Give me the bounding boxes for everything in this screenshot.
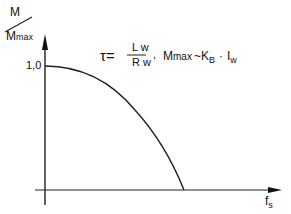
- y-den-sub: max: [16, 32, 33, 42]
- mmax-main: M: [163, 49, 173, 63]
- i-sub: w: [230, 55, 237, 65]
- x-label-sub: s: [268, 200, 273, 210]
- chart-plot: [0, 0, 291, 214]
- curve-series: [45, 66, 184, 190]
- mmax-sub: max: [173, 51, 192, 62]
- k-sub: B: [209, 55, 215, 65]
- y-label-denominator: Mmax: [6, 29, 33, 43]
- y-label-numerator: M: [10, 5, 20, 19]
- formula-mmax: Mmax~KB·Iw: [163, 49, 237, 63]
- tilde: ~: [194, 49, 201, 63]
- formula-separator: ,: [153, 48, 156, 60]
- y-axis-arrow-icon: [42, 34, 48, 50]
- k-symbol: K: [201, 49, 209, 63]
- y-tick-1: 1,0: [26, 59, 41, 71]
- formula-denominator: R w: [132, 56, 151, 68]
- y-den-main: M: [6, 29, 16, 43]
- dot: ·: [219, 49, 223, 63]
- x-axis-arrow-icon: [268, 187, 282, 193]
- x-label: fs: [265, 194, 273, 208]
- formula-tau: τ=: [100, 47, 115, 64]
- formula-numerator: L w: [132, 41, 149, 53]
